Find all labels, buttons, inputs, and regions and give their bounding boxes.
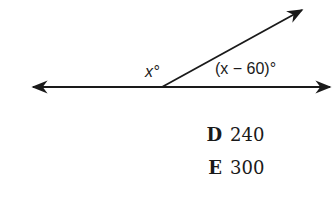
choice-value: 300 [230,157,264,178]
choice-letter: E [202,157,222,178]
answer-choice-e: E300 [202,157,264,178]
answer-choice-d: D240 [202,124,264,145]
choice-value: 240 [230,124,264,145]
angle-label-x: x° [145,63,159,81]
angle-label-x-minus-60: (x − 60)° [215,60,276,78]
angle-diagram [0,0,332,217]
choice-letter: D [202,124,222,145]
